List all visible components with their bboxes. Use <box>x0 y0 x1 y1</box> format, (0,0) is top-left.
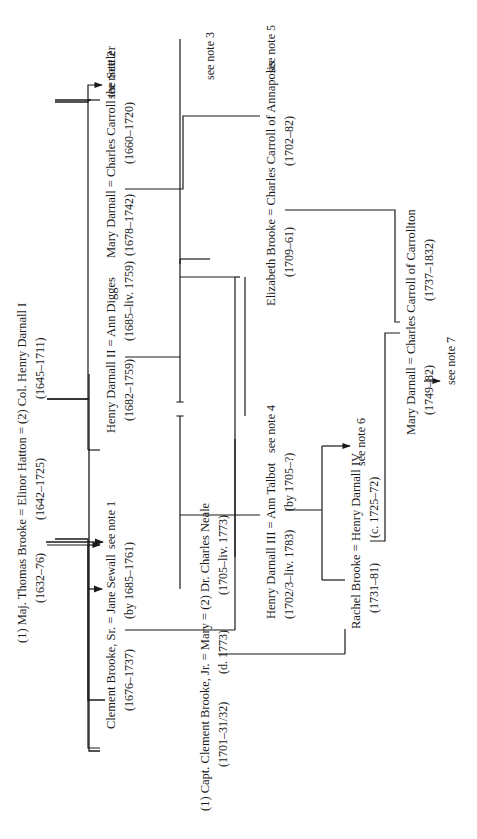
family-tree-connectors-precise <box>0 0 477 839</box>
genealogy-chart: (1) Maj. Thomas Brooke = Elinor Hatton =… <box>0 0 477 839</box>
